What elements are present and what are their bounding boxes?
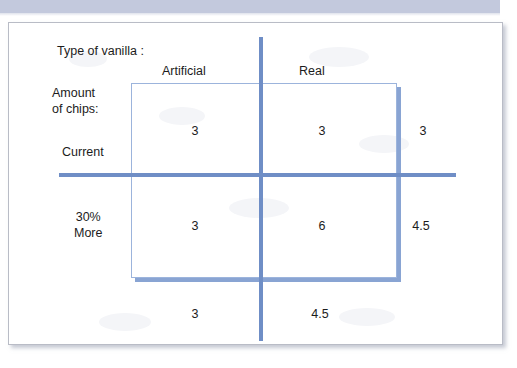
cell-box-shadow-right — [397, 87, 401, 282]
top-strip-gradient — [0, 13, 500, 16]
cell-value-current-artificial: 3 — [175, 123, 215, 139]
column-factor-label: Type of vanilla : — [57, 43, 144, 59]
figure-panel: Type of vanilla : Artificial Real Amount… — [8, 22, 503, 345]
row-header-30-percent-more: 30% More — [74, 209, 102, 241]
row-margin-current: 3 — [403, 123, 443, 139]
cell-value-more-artificial: 3 — [175, 218, 215, 234]
screenshot-root: Type of vanilla : Artificial Real Amount… — [0, 0, 517, 368]
cell-value-more-real: 6 — [302, 218, 342, 234]
column-header-artificial: Artificial — [162, 63, 206, 79]
column-margin-artificial: 3 — [175, 306, 215, 322]
row-factor-label: Amount of chips: — [52, 85, 99, 117]
paper-texture-blob — [339, 308, 395, 326]
column-header-real: Real — [299, 63, 325, 79]
row-margin-30-percent-more: 4.5 — [401, 218, 441, 234]
cell-box-outline — [131, 83, 397, 278]
column-margin-real: 4.5 — [300, 306, 340, 322]
cell-value-current-real: 3 — [302, 123, 342, 139]
horizontal-axis-line — [59, 173, 456, 177]
paper-texture-blob — [99, 313, 151, 331]
top-decorative-strip — [0, 0, 500, 13]
figure-canvas: Type of vanilla : Artificial Real Amount… — [9, 23, 502, 344]
vertical-axis-line — [259, 37, 263, 341]
cell-box-shadow-bottom — [135, 278, 401, 282]
row-header-current: Current — [62, 144, 104, 160]
